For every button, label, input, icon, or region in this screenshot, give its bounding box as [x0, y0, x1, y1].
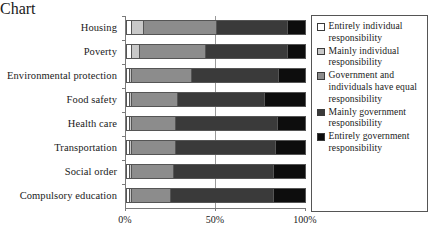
bar-segment [177, 93, 264, 106]
category-label: Social order [0, 160, 121, 184]
category-label: Environmental protection [0, 64, 121, 88]
x-axis-tick-label: 100% [293, 214, 316, 225]
bar-row [126, 16, 306, 40]
legend-swatch-mainly-government [317, 109, 325, 117]
stacked-bar [126, 44, 306, 59]
bar-row [126, 64, 306, 88]
legend-item[interactable]: Government and individuals have equal re… [317, 69, 424, 104]
plot-area [125, 16, 305, 208]
bar-segment [143, 21, 216, 34]
bar-segment [277, 117, 305, 130]
category-axis-labels: HousingPovertyEnvironmental protectionFo… [0, 16, 121, 208]
stacked-bar [126, 140, 306, 155]
legend-swatch-entirely-individual [317, 23, 325, 31]
stacked-bar-chart: HousingPovertyEnvironmental protectionFo… [0, 0, 433, 246]
category-label: Housing [0, 16, 121, 40]
x-axis-tick [305, 208, 306, 211]
stacked-bar [126, 164, 306, 179]
category-label: Compulsory education [0, 184, 121, 208]
x-axis-tick-label: 0% [118, 214, 131, 225]
bar-segment [264, 93, 305, 106]
bar-row [126, 112, 306, 136]
chart-legend: Entirely individual responsibilityMainly… [311, 15, 428, 212]
bar-segment [278, 69, 305, 82]
legend-item[interactable]: Mainly government responsibility [317, 106, 424, 129]
bar-segment [131, 141, 176, 154]
bar-segment [175, 141, 275, 154]
bar-row [126, 136, 306, 160]
legend-label: Entirely individual responsibility [329, 20, 425, 43]
bar-segment [131, 165, 174, 178]
legend-label: Entirely government responsibility [329, 130, 425, 153]
bar-segment [131, 21, 143, 34]
bar-segment [131, 93, 177, 106]
legend-item[interactable]: Mainly individual responsibility [317, 45, 424, 68]
bar-segment [275, 141, 305, 154]
stacked-bar [126, 116, 306, 131]
bar-segment [131, 117, 176, 130]
y-axis-tick [122, 184, 125, 185]
x-axis-tick [215, 208, 216, 211]
bar-row [126, 184, 306, 208]
legend-label: Government and individuals have equal re… [329, 69, 425, 104]
bar-segment [170, 189, 273, 202]
legend-item[interactable]: Entirely government responsibility [317, 130, 424, 153]
bar-segment [173, 165, 273, 178]
bar-segment [273, 165, 305, 178]
legend-label: Mainly individual responsibility [329, 45, 425, 68]
bar-segment [191, 69, 278, 82]
bar-segment [139, 45, 205, 58]
bar-segment [131, 189, 170, 202]
stacked-bar [126, 188, 306, 203]
y-axis-tick [122, 88, 125, 89]
bar-segment [205, 45, 287, 58]
bar-segment [131, 45, 140, 58]
y-axis-tick [122, 64, 125, 65]
y-axis-tick [122, 16, 125, 17]
bar-segment [287, 21, 305, 34]
x-axis-tick [125, 208, 126, 211]
y-axis-tick [122, 40, 125, 41]
bar-segment [175, 117, 276, 130]
bar-segment [131, 69, 192, 82]
stacked-bar [126, 92, 306, 107]
legend-label: Mainly government responsibility [329, 106, 425, 129]
y-axis-tick [122, 112, 125, 113]
legend-swatch-equal [317, 72, 325, 80]
category-label: Health care [0, 112, 121, 136]
stacked-bar [126, 68, 306, 83]
legend-swatch-entirely-government [317, 133, 325, 141]
bar-row [126, 160, 306, 184]
category-label: Poverty [0, 40, 121, 64]
y-axis-tick [122, 160, 125, 161]
bar-row [126, 88, 306, 112]
category-label: Food safety [0, 88, 121, 112]
bar-segment [216, 21, 287, 34]
stacked-bar [126, 20, 306, 35]
category-label: Transportation [0, 136, 121, 160]
legend-swatch-mainly-individual [317, 48, 325, 56]
x-axis-tick-label: 50% [206, 214, 224, 225]
legend-item[interactable]: Entirely individual responsibility [317, 20, 424, 43]
bar-segment [273, 189, 305, 202]
y-axis-tick [122, 136, 125, 137]
bar-segment [287, 45, 305, 58]
bar-row [126, 40, 306, 64]
